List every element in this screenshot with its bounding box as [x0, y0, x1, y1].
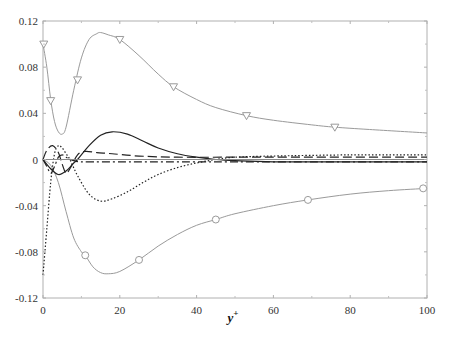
triangle-down-marker — [74, 77, 82, 84]
y-tick-label: 0 — [33, 154, 39, 166]
chart: 020406080100-0.12-0.08-0.0400.040.080.12… — [0, 0, 450, 340]
y-tick-label: 0.04 — [19, 107, 39, 119]
series-black-dotted — [43, 145, 427, 275]
x-tick-label: 100 — [419, 304, 436, 316]
triangle-down-marker — [47, 98, 55, 105]
y-tick-label: 0.12 — [19, 15, 38, 27]
series-upper-gray-triangles — [43, 32, 427, 134]
x-tick-label: 0 — [40, 304, 46, 316]
circle-marker — [304, 196, 311, 203]
circle-marker — [136, 256, 143, 263]
circle-marker — [212, 216, 219, 223]
series-lower-gray-circles — [43, 160, 427, 274]
circle-marker — [82, 252, 89, 259]
y-tick-label: 0.08 — [19, 61, 39, 73]
y-tick-label: -0.12 — [15, 292, 38, 304]
series-layer — [43, 32, 427, 274]
triangle-down-marker — [116, 36, 124, 43]
circle-marker — [420, 185, 427, 192]
x-tick-label: 80 — [345, 304, 357, 316]
marker-layer — [40, 36, 427, 263]
y-tick-label: -0.04 — [15, 200, 38, 212]
y-tick-label: -0.08 — [15, 246, 38, 258]
x-tick-label: 40 — [191, 304, 203, 316]
x-tick-label: 60 — [268, 304, 280, 316]
x-axis-title: y+ — [226, 308, 239, 325]
x-tick-label: 20 — [114, 304, 126, 316]
triangle-down-marker — [170, 84, 178, 91]
tick-labels: 020406080100-0.12-0.08-0.0400.040.080.12 — [15, 15, 436, 316]
